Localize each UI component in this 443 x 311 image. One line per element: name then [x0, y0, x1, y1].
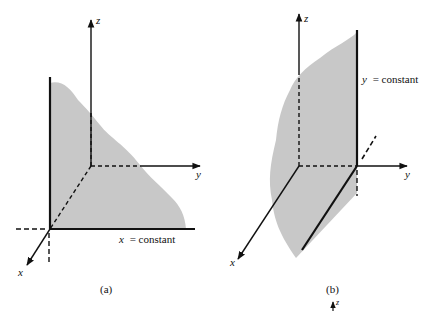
- plane-label-b: y = constant: [361, 73, 418, 85]
- plane-y-constant: [270, 32, 357, 258]
- figure-b: z y x y = constant (b): [229, 12, 418, 296]
- coordinate-planes-diagram: z y x x = constant (a) z y x y = constan…: [0, 0, 443, 311]
- z-axis-label-b: z: [303, 12, 309, 24]
- y-axis-label-a: y: [195, 168, 201, 180]
- z-axis-label-c: z: [335, 298, 340, 307]
- x-axis-a: [27, 229, 50, 265]
- plane-label-a: x = constant: [118, 233, 175, 245]
- figure-c-partial: z: [333, 298, 340, 311]
- caption-a: (a): [100, 283, 113, 296]
- plane-x-constant: [50, 82, 186, 229]
- x-axis-label-a: x: [17, 266, 23, 278]
- negative-x-axis-b: [362, 136, 376, 159]
- caption-b: (b): [326, 283, 339, 296]
- figure-a: z y x x = constant (a): [16, 14, 201, 296]
- z-axis-label-a: z: [95, 14, 101, 26]
- x-axis-label-b: x: [229, 256, 235, 268]
- y-axis-label-b: y: [404, 168, 410, 180]
